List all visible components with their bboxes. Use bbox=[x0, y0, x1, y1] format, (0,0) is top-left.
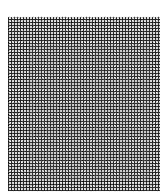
inner-grid-region bbox=[28, 43, 150, 181]
halftone-grid bbox=[8, 17, 160, 191]
image-canvas bbox=[0, 0, 167, 196]
